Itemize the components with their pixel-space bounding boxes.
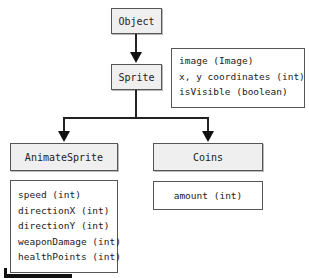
attribute-item: directionY (int) (18, 218, 110, 234)
attribute-item: speed (int) (18, 187, 110, 203)
attributes-box-coins: amount (int) (153, 181, 263, 210)
connector-sprite-down (135, 90, 137, 118)
class-label-animatesprite: AnimateSprite (25, 152, 103, 163)
class-label-object: Object (118, 16, 154, 27)
attribute-item: healthPoints (int) (18, 249, 110, 265)
corner-bar-decoration (4, 274, 72, 278)
corner-bar-decoration (4, 268, 7, 278)
attributes-box-sprite: image (Image) x, y coordinates (int) isV… (171, 48, 305, 108)
class-label-coins: Coins (193, 152, 223, 163)
arrow-to-animatesprite-icon (58, 131, 70, 142)
attribute-item: image (Image) (179, 53, 297, 69)
class-box-coins: Coins (153, 143, 263, 171)
arrow-to-sprite-icon (130, 52, 142, 63)
attribute-item: directionX (int) (18, 203, 110, 219)
attribute-item: isVisible (boolean) (179, 84, 297, 100)
connector-object-sprite (135, 34, 137, 54)
class-box-sprite: Sprite (111, 64, 162, 90)
class-label-sprite: Sprite (118, 72, 154, 83)
attributes-box-animatesprite: speed (int) directionX (int) directionY … (10, 180, 118, 273)
class-box-animatesprite: AnimateSprite (10, 143, 118, 171)
connector-horizontal (63, 117, 209, 119)
attribute-item: amount (int) (161, 188, 255, 204)
arrow-to-coins-icon (202, 131, 214, 142)
attribute-item: weaponDamage (int) (18, 234, 110, 250)
attribute-item: x, y coordinates (int) (179, 69, 297, 85)
class-box-object: Object (111, 8, 162, 34)
